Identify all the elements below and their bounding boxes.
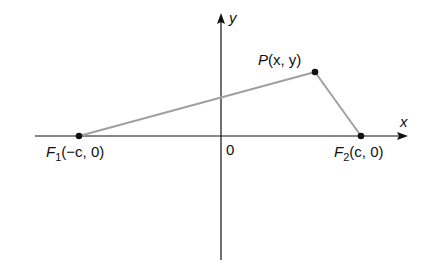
ellipse-foci-diagram: y x 0 P(x, y) F1(−c, 0) F2(c, 0) (0, 0, 436, 272)
x-axis-label: x (399, 113, 408, 130)
origin-label: 0 (226, 141, 234, 158)
point-f2-args: (c, 0) (349, 143, 383, 160)
segment-p-f2 (315, 72, 361, 136)
segment-f1-p (79, 72, 315, 136)
point-f1-args: (−c, 0) (61, 143, 104, 160)
point-p (312, 69, 319, 76)
point-f1 (76, 133, 83, 140)
point-p-args: (x, y) (268, 51, 301, 68)
y-axis-label: y (228, 9, 238, 26)
point-p-label: P(x, y) (258, 51, 301, 68)
point-f2-label: F2(c, 0) (334, 143, 383, 163)
point-f1-label: F1(−c, 0) (46, 143, 104, 163)
point-f2 (358, 133, 365, 140)
point-p-name: P (258, 51, 268, 68)
